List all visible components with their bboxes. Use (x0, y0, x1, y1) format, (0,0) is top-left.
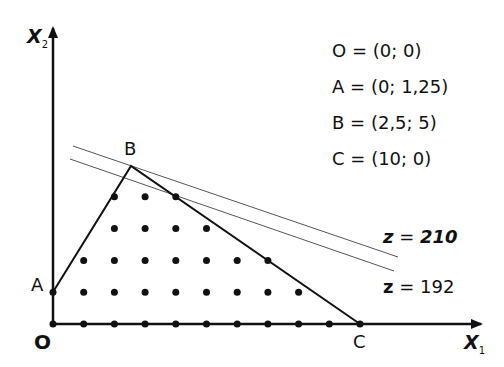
legend-item-o: O = (0; 0) (332, 40, 448, 76)
lattice-point (142, 193, 149, 200)
lattice-point (295, 321, 302, 328)
lattice-point (142, 257, 149, 264)
lattice-point (234, 289, 241, 296)
lattice-point (50, 321, 57, 328)
lattice-point (234, 321, 241, 328)
lattice-point (111, 193, 118, 200)
lattice-point (203, 289, 210, 296)
lattice-point (142, 289, 149, 296)
objective-label-192: z = 192 (383, 276, 454, 297)
lattice-point (172, 193, 179, 200)
lattice-point (142, 225, 149, 232)
lattice-point (264, 257, 271, 264)
lattice-point (80, 289, 87, 296)
lattice-point (172, 321, 179, 328)
lattice-point (111, 225, 118, 232)
lattice-point (264, 289, 271, 296)
lattice-point (111, 289, 118, 296)
point-label-c: C (353, 333, 366, 351)
point-label-a: A (31, 276, 43, 294)
objective-label-210: z = 210 (383, 226, 458, 247)
lattice-point (295, 289, 302, 296)
legend-item-c: C = (10; 0) (332, 148, 448, 184)
legend-item-b: B = (2,5; 5) (332, 112, 448, 148)
lattice-point (172, 257, 179, 264)
x2-axis-label: X2 (27, 27, 48, 50)
lattice-points (50, 193, 364, 327)
lattice-point (357, 321, 364, 328)
lattice-point (80, 257, 87, 264)
lattice-point (172, 289, 179, 296)
x1-axis-label: X1 (464, 333, 485, 356)
lattice-point (203, 321, 210, 328)
lattice-point (203, 225, 210, 232)
point-label-b: B (124, 140, 136, 158)
lattice-point (172, 225, 179, 232)
lattice-point (142, 321, 149, 328)
lattice-point (111, 257, 118, 264)
lattice-point (326, 321, 333, 328)
lattice-point (234, 257, 241, 264)
lattice-point (111, 321, 118, 328)
lattice-point (203, 257, 210, 264)
legend-item-a: A = (0; 1,25) (332, 76, 448, 112)
lattice-point (50, 289, 57, 296)
feasible-region-boundary (53, 166, 360, 324)
lattice-point (264, 321, 271, 328)
point-label-o: O (34, 332, 51, 352)
lattice-point (80, 321, 87, 328)
vertex-legend: O = (0; 0) A = (0; 1,25) B = (2,5; 5) C … (332, 40, 448, 184)
